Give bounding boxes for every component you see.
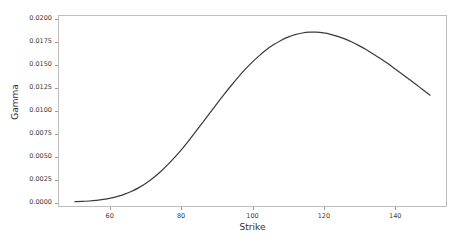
y-tick-label: 0.0000	[29, 199, 52, 206]
x-tick-mark	[324, 207, 325, 210]
plot-area	[58, 15, 447, 207]
x-tick-label: 60	[106, 213, 114, 220]
x-tick-mark	[395, 207, 396, 210]
x-tick-mark	[110, 207, 111, 210]
y-tick-label: 0.0025	[29, 176, 52, 183]
gamma-curve-line	[75, 32, 430, 202]
y-tick-label: 0.0150	[29, 61, 52, 68]
y-tick-label: 0.0200	[29, 15, 52, 22]
x-tick-mark	[253, 207, 254, 210]
x-axis-label: Strike	[58, 223, 447, 232]
x-tick-label: 100	[246, 213, 258, 220]
gamma-curve-svg	[59, 16, 446, 206]
x-tick-label: 140	[389, 213, 401, 220]
gamma-vs-strike-figure: 0.00000.00250.00500.00750.01000.01250.01…	[0, 0, 465, 243]
y-tick-label: 0.0050	[29, 153, 52, 160]
x-tick-mark	[181, 207, 182, 210]
x-tick-label: 120	[318, 213, 330, 220]
y-tick-label: 0.0125	[29, 84, 52, 91]
y-axis-label-wrapper: Gamma	[11, 57, 23, 147]
y-tick-label: 0.0100	[29, 107, 52, 114]
x-tick-label: 80	[177, 213, 185, 220]
y-tick-label: 0.0075	[29, 130, 52, 137]
y-axis-label: Gamma	[11, 57, 20, 147]
y-tick-label: 0.0175	[29, 38, 52, 45]
